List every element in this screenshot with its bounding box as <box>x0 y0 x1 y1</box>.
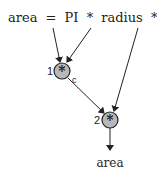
node-number: 2 <box>94 114 100 126</box>
token-eq: = <box>46 10 57 25</box>
token-op2: * <box>151 10 157 25</box>
token-radius1: radius <box>101 10 143 25</box>
token-pi: PI <box>65 10 79 25</box>
node-1: * 1 c <box>47 63 77 86</box>
expression-text: area = PI * radius * radius <box>8 10 157 25</box>
node-2: * 2 <box>94 112 118 129</box>
node-annotation: c <box>72 75 77 85</box>
token-op1: * <box>87 10 94 25</box>
dataflow-diagram: area = PI * radius * radius * 1 c * 2 ar… <box>0 0 157 180</box>
node-number: 1 <box>47 65 53 77</box>
output-label: area <box>96 156 123 170</box>
asterisk-icon: * <box>106 112 114 128</box>
edge-pi-to-node1 <box>53 28 60 62</box>
edge-radius-to-node2 <box>114 28 138 111</box>
token-lhs: area <box>8 10 38 25</box>
edge-radius-to-node1 <box>67 28 91 62</box>
asterisk-icon: * <box>58 63 66 79</box>
